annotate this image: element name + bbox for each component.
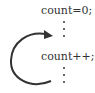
loop-arrow-icon xyxy=(0,0,95,93)
